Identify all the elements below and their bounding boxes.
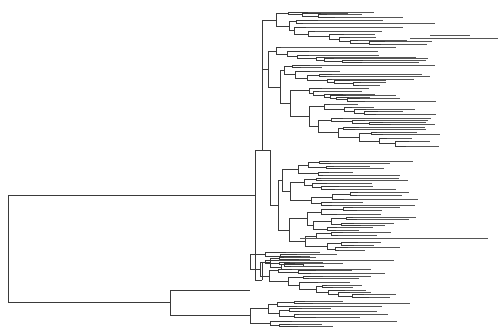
phylogenetic-tree [0, 0, 504, 330]
internal-branch [343, 60, 364, 63]
internal-branch [308, 162, 327, 167]
internal-branch [8, 195, 255, 302]
internal-branch [262, 150, 278, 205]
internal-branch [332, 194, 350, 200]
internal-branch [340, 37, 350, 41]
internal-branch [250, 309, 271, 323]
internal-branch [396, 141, 410, 146]
internal-branch [305, 180, 316, 186]
internal-branch [338, 293, 352, 297]
internal-branch [276, 14, 289, 27]
internal-branch [294, 28, 308, 35]
internal-branch [354, 109, 366, 113]
internal-branch [309, 107, 325, 127]
internal-branch [290, 91, 309, 117]
internal-branch [313, 184, 327, 188]
internal-branch [322, 209, 343, 214]
internal-branch [288, 52, 309, 57]
internal-branch [299, 165, 319, 174]
internal-branch [280, 71, 290, 104]
internal-branch [309, 88, 322, 93]
internal-branch [314, 92, 324, 96]
internal-branch [327, 79, 334, 82]
tree-branches [8, 13, 498, 327]
internal-branch [317, 57, 326, 60]
internal-branch [276, 48, 287, 54]
internal-branch [262, 20, 276, 69]
internal-branch [319, 172, 329, 176]
internal-branch [297, 55, 316, 59]
internal-branch [325, 105, 345, 109]
internal-branch [322, 202, 332, 205]
internal-branch [300, 283, 318, 290]
internal-branch [336, 97, 349, 100]
internal-branch [307, 212, 322, 225]
internal-branch [255, 150, 262, 280]
internal-branch [278, 181, 289, 231]
internal-branch [331, 118, 352, 122]
internal-branch [319, 161, 331, 164]
internal-branch [268, 51, 280, 87]
internal-branch [380, 138, 396, 143]
internal-branch [345, 107, 354, 111]
internal-branch [271, 321, 292, 326]
internal-branch [279, 310, 294, 316]
internal-branch [289, 22, 296, 31]
internal-branch [308, 31, 330, 37]
internal-branch [290, 309, 302, 312]
internal-branch [170, 290, 250, 315]
internal-branch [288, 278, 303, 286]
internal-branch [327, 244, 341, 250]
internal-branch [365, 111, 379, 114]
